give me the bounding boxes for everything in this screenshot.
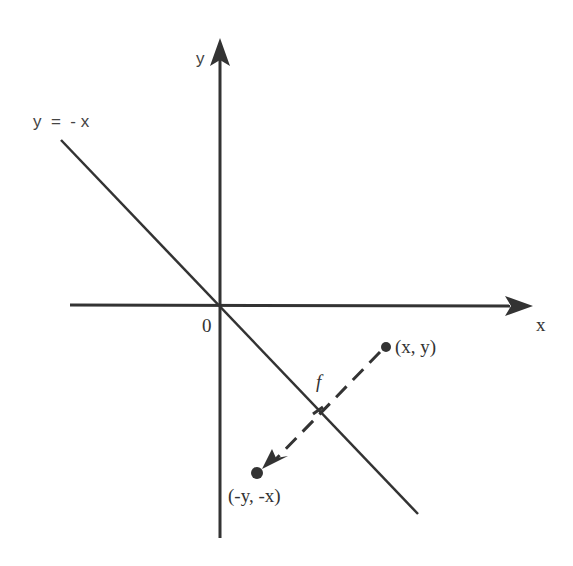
point-neg-y-neg-x (251, 467, 263, 479)
point-label: (x, y) (395, 337, 436, 356)
mapping-arrowhead-icon (262, 449, 288, 469)
y-axis-label: y (196, 50, 205, 67)
mapping-dashed-line (275, 352, 380, 460)
point-x-y (381, 342, 391, 352)
origin-label: 0 (202, 316, 212, 335)
map-label: f (316, 372, 321, 391)
line-label: y = - x (33, 113, 89, 130)
x-axis-label: x (536, 315, 546, 334)
line-y-equals-neg-x (61, 140, 418, 514)
x-axis (70, 305, 510, 306)
image-point-label: (-y, -x) (228, 486, 281, 505)
diagram-canvas (0, 0, 573, 566)
